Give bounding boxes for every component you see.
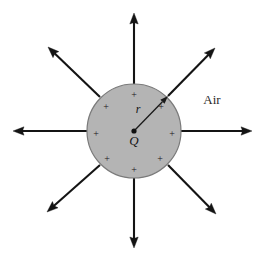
field-line-right	[181, 127, 252, 135]
field-line-left-arrowhead	[13, 127, 24, 135]
field-line-up-left	[48, 47, 100, 97]
field-line-up-left-shaft	[54, 53, 100, 97]
field-line-down	[130, 178, 138, 248]
field-line-left	[13, 127, 87, 135]
figure-canvas: ++++++++ AirQr	[0, 0, 262, 258]
charge-plus-symbol: +	[157, 153, 163, 164]
charge-plus-symbol: +	[169, 128, 175, 139]
charge-plus-symbol: +	[93, 128, 99, 139]
field-line-up-arrowhead	[130, 13, 138, 24]
charge-plus-symbol: +	[104, 153, 110, 164]
field-line-down-left-shaft	[54, 165, 100, 206]
field-line-up-right-shaft	[168, 54, 209, 96]
field-line-down-arrowhead	[130, 237, 138, 248]
field-line-up-right	[168, 48, 215, 96]
charge-plus-symbol: +	[131, 89, 137, 100]
field-line-down-right-shaft	[168, 165, 210, 208]
field-line-down-right	[168, 165, 216, 214]
electric-field-figure: ++++++++ AirQr	[0, 0, 262, 258]
field-line-up	[130, 13, 138, 84]
charge-plus-symbol: +	[131, 164, 137, 175]
charge-plus-symbol: +	[103, 101, 109, 112]
radius-label: r	[136, 102, 141, 116]
field-line-down-left	[47, 165, 100, 212]
charge-label: Q	[129, 133, 139, 148]
medium-label: Air	[203, 92, 221, 107]
field-line-right-arrowhead	[241, 127, 252, 135]
